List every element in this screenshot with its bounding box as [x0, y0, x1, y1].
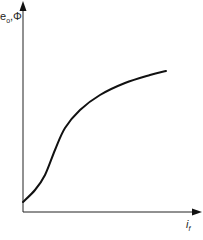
x-label-sub: f [188, 225, 190, 232]
chart-canvas [0, 0, 203, 240]
y-axis-label: eo,Φ [0, 10, 22, 24]
y-label-phi: Φ [13, 10, 22, 22]
magnetization-curve [23, 71, 166, 202]
x-axis-label: if [186, 218, 190, 232]
x-axis-arrow-icon [192, 209, 202, 216]
